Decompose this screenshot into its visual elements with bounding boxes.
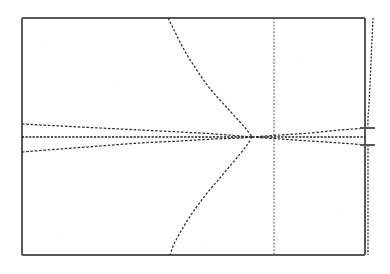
root-locus-plot <box>0 0 390 274</box>
plot-root <box>0 0 390 274</box>
